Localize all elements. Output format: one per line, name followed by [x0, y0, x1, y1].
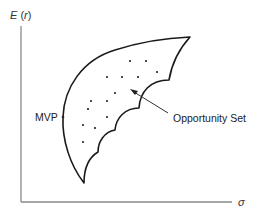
portfolio-point: [137, 76, 139, 78]
x-axis-label-sigma: σ: [238, 196, 245, 208]
efficient-frontier-curve: [63, 37, 190, 183]
opportunity-set-label: Opportunity Set: [173, 112, 246, 124]
portfolio-point: [114, 92, 116, 94]
portfolio-point: [106, 76, 108, 78]
portfolio-point: [145, 60, 147, 62]
mvp-label: MVP: [35, 111, 58, 123]
portfolio-point: [90, 100, 92, 102]
portfolio-point: [106, 116, 108, 118]
portfolio-points: [82, 60, 158, 143]
portfolio-point: [106, 100, 108, 102]
mvp-point: [62, 116, 65, 119]
portfolio-point: [156, 71, 158, 73]
y-axis-label-close: ): [28, 9, 32, 21]
portfolio-point: [82, 141, 84, 143]
portfolio-point: [129, 60, 131, 62]
portfolio-point: [121, 76, 123, 78]
portfolio-point: [87, 108, 89, 110]
opportunity-set-diagram: E (r) σ MVP Opportunity Set: [0, 0, 258, 215]
portfolio-point: [94, 127, 96, 129]
portfolio-point: [82, 124, 84, 126]
y-axis-label: E (r): [10, 9, 31, 21]
